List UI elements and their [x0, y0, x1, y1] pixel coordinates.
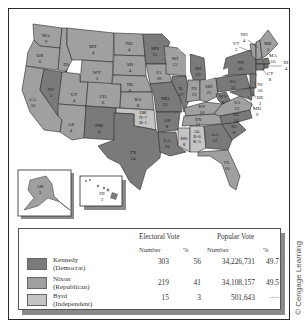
svg-text:IL: IL [179, 86, 184, 91]
candidate-party: (Democrat) [53, 264, 85, 272]
svg-text:IN: IN [191, 86, 197, 91]
svg-text:10: 10 [200, 110, 206, 115]
svg-text:TX: TX [130, 150, 137, 155]
svg-text:12: 12 [213, 138, 219, 143]
svg-text:KY: KY [198, 104, 206, 109]
pv-number: 34,108,157 [199, 278, 255, 287]
svg-text:NE: NE [127, 82, 134, 87]
svg-text:9: 9 [256, 112, 259, 117]
republican-swatch [27, 277, 47, 289]
svg-text:NC: NC [233, 112, 241, 117]
state-in [186, 80, 200, 102]
svg-text:32: 32 [231, 85, 237, 90]
state-fl [198, 150, 240, 190]
ev-percent: 56 [177, 257, 201, 266]
svg-text:12: 12 [235, 106, 241, 111]
svg-text:MI: MI [195, 66, 201, 71]
svg-text:NJ: NJ [257, 82, 263, 87]
svg-text:10: 10 [157, 76, 163, 81]
svg-text:24: 24 [131, 156, 137, 161]
svg-text:UT: UT [71, 92, 78, 97]
svg-text:4: 4 [285, 66, 288, 71]
svg-text:27: 27 [179, 92, 185, 97]
svg-text:CA: CA [30, 97, 37, 102]
pv-number: 34,226,731 [199, 257, 255, 266]
svg-text:SC: SC [231, 124, 238, 129]
legend-table: Electoral Vote Popular Vote Number % Num… [18, 228, 281, 310]
pv-percent: ---- [257, 293, 279, 302]
svg-text:WV: WV [219, 94, 228, 99]
svg-text:13: 13 [192, 92, 198, 97]
svg-text:MO: MO [161, 96, 169, 101]
ev-number-label: Number [139, 246, 161, 253]
svg-text:MA: MA [269, 53, 277, 58]
svg-text:OH: OH [205, 84, 213, 89]
svg-text:RI: RI [284, 60, 289, 65]
svg-text:10: 10 [225, 166, 231, 171]
democrat-swatch [27, 258, 47, 270]
pv-percent: 49.7 [257, 257, 279, 266]
ev-number: 219 [147, 278, 169, 287]
pv-percent: 49.5 [257, 278, 279, 287]
svg-text:45: 45 [239, 66, 245, 71]
svg-text:WA: WA [42, 33, 50, 38]
ev-number: 303 [147, 257, 169, 266]
svg-text:25: 25 [207, 90, 213, 95]
svg-text:NM: NM [95, 123, 104, 128]
svg-text:NH: NH [240, 32, 248, 37]
svg-text:16: 16 [271, 59, 277, 64]
svg-text:10: 10 [165, 144, 171, 149]
svg-text:MN: MN [151, 46, 159, 51]
svg-text:K-5: K-5 [193, 139, 201, 144]
svg-text:MT: MT [89, 44, 97, 49]
svg-text:NY: NY [237, 60, 245, 65]
svg-text:PA: PA [230, 79, 236, 84]
svg-text:ID: ID [63, 62, 69, 67]
svg-text:MD: MD [253, 106, 261, 111]
svg-text:LA: LA [164, 138, 171, 143]
svg-text:11: 11 [153, 52, 158, 57]
svg-text:HI: HI [99, 191, 105, 196]
svg-text:ME: ME [264, 41, 272, 46]
svg-text:13: 13 [163, 102, 169, 107]
svg-text:OR: OR [37, 53, 45, 58]
svg-text:AR: AR [164, 118, 172, 123]
pv-percent-label: % [263, 246, 269, 253]
independent-swatch [27, 294, 47, 306]
svg-text:VA: VA [234, 100, 241, 105]
svg-text:11: 11 [196, 122, 201, 127]
svg-text:VT: VT [233, 41, 240, 46]
candidate-name: Byrd [53, 292, 67, 300]
candidate-party: (Independent) [53, 300, 92, 308]
svg-text:4: 4 [243, 38, 246, 43]
svg-text:DE: DE [257, 95, 264, 100]
svg-text:14: 14 [234, 118, 240, 123]
legend-row-kennedy: Kennedy(Democrat) 303 56 34,226,731 49.7 [27, 256, 277, 276]
ev-percent: 41 [177, 278, 201, 287]
legend-row-byrd: Byrd(Independent) 15 3 501,643 ---- [27, 292, 277, 312]
svg-text:B-1: B-1 [139, 120, 147, 125]
candidate-party: (Republican) [53, 283, 90, 291]
svg-text:3: 3 [235, 47, 238, 52]
svg-text:16: 16 [258, 88, 264, 93]
svg-text:WI: WI [172, 56, 179, 61]
svg-text:12: 12 [173, 62, 179, 67]
state-ri [264, 64, 268, 68]
state-nj [250, 74, 256, 88]
svg-text:FL: FL [224, 160, 230, 165]
svg-text:8: 8 [269, 77, 272, 82]
popular-vote-header: Popular Vote [217, 233, 254, 241]
ev-percent: 3 [177, 293, 201, 302]
svg-text:KS: KS [135, 97, 142, 102]
svg-text:NV: NV [47, 87, 55, 92]
svg-text:AK: AK [36, 184, 44, 189]
svg-text:20: 20 [196, 72, 202, 77]
svg-text:MS: MS [180, 136, 187, 141]
svg-text:WY: WY [93, 70, 102, 75]
svg-text:CO: CO [100, 94, 107, 99]
ev-number: 15 [147, 293, 169, 302]
ev-percent-label: % [183, 246, 189, 253]
svg-text:AZ: AZ [68, 122, 75, 127]
svg-text:SD: SD [127, 62, 134, 67]
pv-number-label: Number [207, 246, 229, 253]
